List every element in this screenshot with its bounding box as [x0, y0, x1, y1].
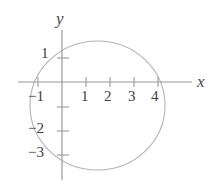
- x-tick-label-4: 4: [151, 89, 159, 104]
- x-tick-label-1: 1: [81, 89, 89, 104]
- y-tick-label-neg2: −2: [28, 121, 44, 136]
- x-tick-label-2: 2: [104, 89, 112, 104]
- x-axis-label: x: [197, 73, 205, 90]
- y-tick-label-neg3: −3: [28, 145, 44, 160]
- x-tick-label-neg1: −1: [28, 89, 44, 104]
- x-tick-label-3: 3: [128, 89, 136, 104]
- y-tick-label-1: 1: [41, 46, 49, 61]
- y-axis-label: y: [56, 10, 64, 27]
